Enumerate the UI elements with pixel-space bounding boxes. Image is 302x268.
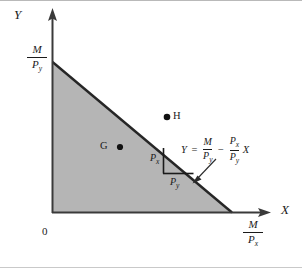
- x-axis-label: X: [281, 203, 289, 216]
- vertical-intercept-numerator: M: [27, 44, 47, 56]
- equation-lhs: Y: [181, 144, 187, 155]
- point-g-label: G: [100, 140, 108, 151]
- equation-term-2: Px Py: [230, 136, 239, 165]
- equation-minus-sign: −: [218, 144, 224, 155]
- equation-term-2-denominator: Py: [230, 152, 239, 165]
- equation-term-1-denominator: Py: [203, 151, 212, 164]
- budget-line-equation: Y = M Py − Px Py X: [181, 136, 249, 165]
- equation-term-1-numerator: M: [203, 137, 212, 148]
- slope-triangle-vertical-leg-label: Px: [150, 152, 159, 166]
- slope-triangle-horizontal-leg-label: Py: [170, 176, 179, 190]
- origin-label: 0: [42, 225, 48, 237]
- horizontal-intercept-denominator: Px: [243, 234, 263, 248]
- equation-variable: X: [243, 144, 249, 155]
- horizontal-intercept-label: M Px: [243, 219, 263, 248]
- point-h-marker: [164, 114, 171, 121]
- equation-equals-sign: =: [191, 144, 197, 155]
- y-axis-label: Y: [14, 8, 21, 21]
- point-h-label: H: [173, 110, 181, 121]
- vertical-intercept-label: M Py: [27, 44, 47, 73]
- point-g-marker: [117, 144, 123, 150]
- equation-term-2-numerator: Px: [230, 136, 239, 149]
- horizontal-intercept-numerator: M: [243, 219, 263, 231]
- equation-term-1: M Py: [203, 137, 212, 163]
- budget-constraint-figure: Y X 0 M Py M Px Px Py G H Y = M Py − Px …: [0, 0, 302, 268]
- vertical-intercept-denominator: Py: [27, 59, 47, 73]
